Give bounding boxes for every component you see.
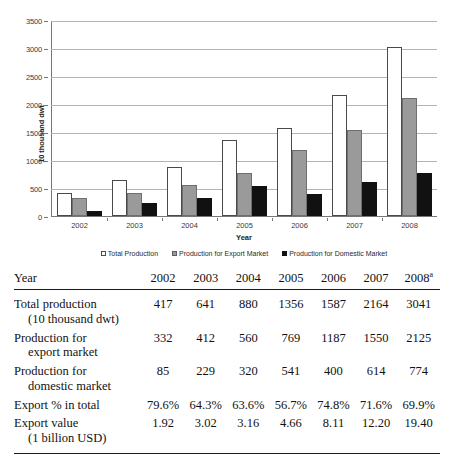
table-cell: 71.6% — [355, 394, 398, 413]
x-tick-mark — [272, 218, 273, 221]
table-cell: 412 — [184, 327, 227, 361]
x-tick-mark — [217, 218, 218, 221]
table-column-header: 2007 — [355, 270, 398, 290]
table-column-header: 2005 — [270, 270, 313, 290]
y-tick-mark — [44, 21, 48, 22]
bar — [347, 130, 362, 216]
y-tick-mark — [44, 133, 48, 134]
table-row-label: Total production(10 thousand dwt) — [14, 290, 142, 327]
x-tick-label: 2002 — [52, 218, 107, 232]
table-cell: 417 — [142, 290, 185, 327]
y-tick-mark — [44, 161, 48, 162]
table-cell: 880 — [227, 290, 270, 327]
table-cell: 3041 — [397, 290, 440, 327]
table-header-label: Year — [14, 270, 142, 290]
legend-swatch-icon — [101, 251, 106, 256]
x-tick-label: 2008 — [382, 218, 437, 232]
x-tick-label: 2004 — [162, 218, 217, 232]
legend-label: Total Production — [108, 250, 158, 257]
bar — [332, 95, 347, 216]
y-tick-label: 500 — [30, 185, 42, 194]
table-row-label-continued: (10 thousand dwt) — [14, 312, 142, 327]
x-tick-label: 2003 — [107, 218, 162, 232]
bar-group — [162, 21, 217, 216]
y-tick-label: 3500 — [26, 17, 42, 26]
bar — [237, 173, 252, 216]
footnote-marker: a — [429, 270, 433, 279]
bar-groups — [52, 21, 437, 216]
x-axis-title: Year — [51, 233, 437, 242]
bar-group — [272, 21, 327, 216]
bar-chart-figure: 10 thousand dwt 050010001500200025003000… — [0, 0, 451, 268]
bar — [222, 140, 237, 216]
x-tick-mark — [327, 218, 328, 221]
bar — [387, 47, 402, 216]
bar — [277, 128, 292, 216]
table-cell: 774 — [397, 360, 440, 394]
x-tick-mark — [107, 218, 108, 221]
y-tick-mark — [44, 217, 48, 218]
bar — [402, 98, 417, 216]
legend-label: Production for Domestic Market — [289, 250, 387, 257]
table-body: Total production(10 thousand dwt)4176418… — [14, 290, 440, 453]
y-tick-label: 2000 — [26, 101, 42, 110]
bar-group — [107, 21, 162, 216]
table-cell: 69.9% — [397, 394, 440, 413]
chart-legend: Total ProductionProduction for Export Ma… — [51, 250, 437, 257]
legend-swatch-icon — [282, 251, 287, 256]
table-cell: 400 — [312, 360, 355, 394]
table-cell: 63.6% — [227, 394, 270, 413]
table-cell: 3.16 — [227, 412, 270, 453]
table-cell: 1187 — [312, 327, 355, 361]
x-tick-mark — [162, 218, 163, 221]
table-cell: 79.6% — [142, 394, 185, 413]
table-cell: 541 — [270, 360, 313, 394]
table-cell: 332 — [142, 327, 185, 361]
table-cell: 769 — [270, 327, 313, 361]
x-tick-label: 2005 — [217, 218, 272, 232]
table-cell: 19.40 — [397, 412, 440, 453]
table-column-header: 2004 — [227, 270, 270, 290]
table-row-label-continued: domestic market — [14, 379, 142, 394]
bar — [252, 186, 267, 216]
legend-item: Total Production — [101, 250, 158, 257]
y-tick-label: 3000 — [26, 45, 42, 54]
table-cell: 12.20 — [355, 412, 398, 453]
table-row-label: Export % in total — [14, 394, 142, 413]
bar — [182, 185, 197, 216]
table-row-label: Production fordomestic market — [14, 360, 142, 394]
table-cell: 3.02 — [184, 412, 227, 453]
bar — [112, 180, 127, 216]
y-tick-label: 1500 — [26, 129, 42, 138]
table-row: Export value(1 billion USD)1.923.023.164… — [14, 412, 440, 453]
table-cell: 64.3% — [184, 394, 227, 413]
table-cell: 560 — [227, 327, 270, 361]
table-row: Production fordomestic market85229320541… — [14, 360, 440, 394]
bar-group — [382, 21, 437, 216]
table-cell: 229 — [184, 360, 227, 394]
legend-item: Production for Domestic Market — [282, 250, 387, 257]
y-tick-label: 0 — [38, 213, 42, 222]
y-tick-mark — [44, 105, 48, 106]
table-cell: 1.92 — [142, 412, 185, 453]
y-tick-label: 1000 — [26, 157, 42, 166]
x-axis-ticks: 2002200320042005200620072008 — [52, 218, 437, 232]
table-cell: 74.8% — [312, 394, 355, 413]
table-row: Total production(10 thousand dwt)4176418… — [14, 290, 440, 327]
table-header-row: Year 2002200320042005200620072008a — [14, 270, 440, 290]
legend-swatch-icon — [172, 251, 177, 256]
bar — [307, 194, 322, 216]
table-cell: 85 — [142, 360, 185, 394]
bar — [142, 203, 157, 216]
table-bottom-rule — [14, 453, 440, 454]
table-cell: 320 — [227, 360, 270, 394]
table-column-header: 2006 — [312, 270, 355, 290]
y-tick-mark — [44, 77, 48, 78]
table-cell: 1356 — [270, 290, 313, 327]
table-row: Export % in total79.6%64.3%63.6%56.7%74.… — [14, 394, 440, 413]
table-column-header: 2003 — [184, 270, 227, 290]
y-tick-label: 2500 — [26, 73, 42, 82]
x-tick-label: 2006 — [272, 218, 327, 232]
table-row-label: Production forexport market — [14, 327, 142, 361]
table-row-label: Export value(1 billion USD) — [14, 412, 142, 453]
